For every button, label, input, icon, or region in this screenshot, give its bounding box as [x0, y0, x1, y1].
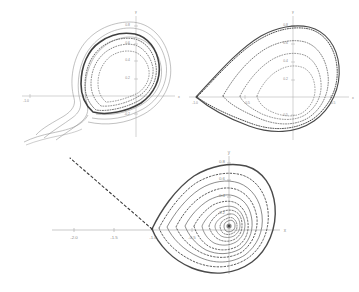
x-tick-label-1: -0.5: [244, 101, 250, 105]
x-axis-label: x: [352, 96, 354, 100]
y-tick-label-1: 0.6: [125, 41, 130, 45]
curve-homoclinic-dotted: [197, 28, 337, 129]
y-tick-label-1: 0.6: [219, 176, 226, 181]
curve-lower-left-tail: [24, 115, 88, 142]
x-tick-label-0: -1.0: [23, 99, 29, 103]
figure-container: 0.8 0.6 0.4 0.2 -0.2 -1.0 x y: [0, 0, 359, 292]
curve-orbit-dotted-2: [240, 53, 321, 119]
top-right-curves: [196, 26, 339, 132]
chart-panel-top-left: 0.8 0.6 0.4 0.2 -0.2 -1.0 x y: [8, 4, 183, 146]
x-tick-label-0: -1.0: [192, 101, 198, 105]
x-tick-label-0: -2.0: [70, 235, 78, 240]
y-tick-label-0: 0.8: [283, 23, 288, 27]
y-tick-label-3: 0.2: [283, 77, 288, 81]
top-left-curves: [24, 22, 171, 145]
top-right-svg: 0.8 0.6 0.4 0.2 -0.5 -1.0 -0.5 0.5 x y: [183, 4, 355, 146]
y-tick-label-3: 0.2: [125, 76, 130, 80]
y-tick-label-2: 0.4: [125, 58, 130, 62]
curve-lower-left-tail-2: [26, 129, 82, 145]
curve-limit-cycle-thick: [81, 33, 159, 113]
x-axis-label: x: [284, 228, 287, 233]
chart-panel-top-right: 0.8 0.6 0.4 0.2 -0.5 -1.0 -0.5 0.5 x y: [183, 4, 355, 146]
top-left-svg: 0.8 0.6 0.4 0.2 -0.2 -1.0 x y: [8, 4, 183, 146]
curve-homoclinic-solid: [196, 26, 339, 132]
y-tick-label-0: 0.8: [219, 159, 226, 164]
saddle-point: [151, 228, 153, 230]
y-axis-label: y: [228, 150, 231, 155]
y-axis-label: y: [292, 10, 294, 14]
curve-outer-solid-3: [56, 37, 162, 140]
bottom-svg: -2.0 -1.5 -1.0 -0.5 0.8 0.6 0.4 0.2 x y: [42, 150, 354, 290]
curve-orbit-dotted-3: [257, 66, 315, 116]
chart-panel-bottom: -2.0 -1.5 -1.0 -0.5 0.8 0.6 0.4 0.2 x y: [42, 150, 354, 290]
curve-separatrix-dashed: [70, 158, 152, 229]
y-axis-label: y: [135, 10, 137, 14]
bottom-curves: [70, 158, 275, 273]
curve-inner-dotted-3: [98, 51, 149, 102]
y-tick-label-0: 0.8: [125, 23, 130, 27]
y-tick-label-2: 0.4: [283, 59, 288, 63]
x-tick-label-1: -1.5: [110, 235, 118, 240]
curve-inner-dotted-2: [91, 44, 153, 106]
x-axis-label: x: [178, 95, 180, 99]
focus-point-core: [228, 225, 231, 228]
